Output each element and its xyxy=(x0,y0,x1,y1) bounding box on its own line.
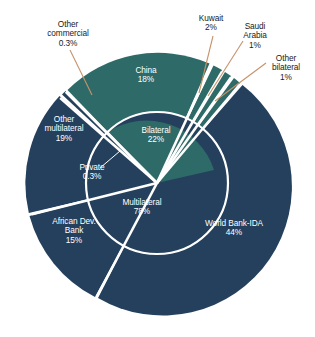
label-multilateral: Multilateral 78% xyxy=(106,198,178,217)
label-bilateral: Bilateral 22% xyxy=(124,126,188,145)
label-private: Private 0.3% xyxy=(64,163,120,182)
label-china: China 18% xyxy=(114,66,178,85)
label-other-multilateral: Other multilateral 19% xyxy=(26,115,102,143)
label-world-bank-ida: World Bank-IDA 44% xyxy=(188,219,280,238)
label-other-commercial: Other commercial 0.3% xyxy=(22,20,114,48)
pie-chart-graphic xyxy=(0,0,315,337)
pie-chart: Other commercial 0.3% Kuwait 2% Saudi Ar… xyxy=(0,0,315,337)
label-other-bilateral: Other bilateral 1% xyxy=(258,54,314,82)
label-african-dev-bank: African Dev. Bank 15% xyxy=(38,217,110,245)
label-saudi-arabia: Saudi Arabia 1% xyxy=(228,22,282,50)
